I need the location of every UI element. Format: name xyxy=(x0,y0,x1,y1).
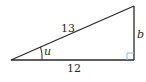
base-label: 12 xyxy=(67,62,81,75)
opposite-label: b xyxy=(137,28,144,41)
hypotenuse-label: 13 xyxy=(61,22,75,35)
triangle-diagram: 13 12 b u xyxy=(0,0,146,82)
angle-label: u xyxy=(44,45,51,58)
right-angle-marker xyxy=(127,53,134,60)
angle-arc xyxy=(41,47,43,60)
